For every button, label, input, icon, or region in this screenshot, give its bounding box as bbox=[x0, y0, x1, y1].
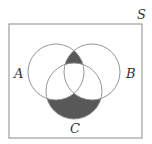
label-s: S bbox=[137, 7, 146, 22]
label-c: C bbox=[70, 121, 80, 136]
venn-diagram: S A B C bbox=[0, 0, 152, 144]
label-b: B bbox=[125, 66, 136, 81]
label-a: A bbox=[13, 66, 23, 81]
